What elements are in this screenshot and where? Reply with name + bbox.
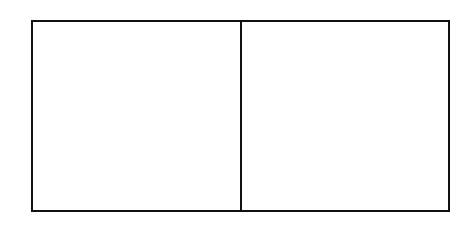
right-panel	[240, 20, 450, 212]
left-panel	[31, 20, 242, 212]
